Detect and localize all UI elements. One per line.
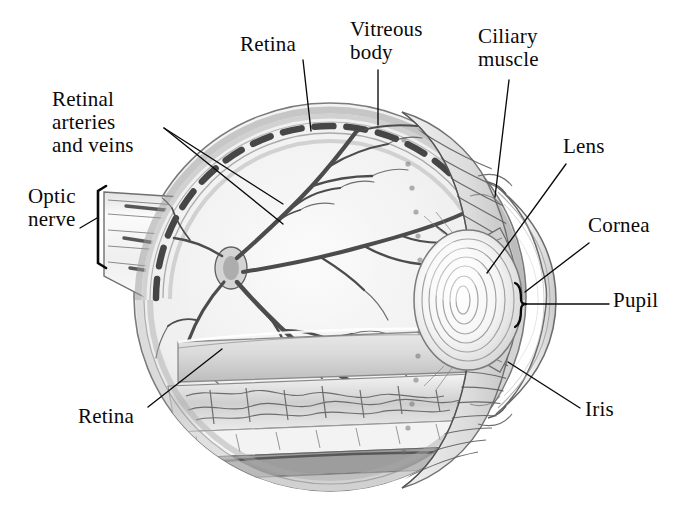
eye-illustration: [0, 0, 691, 515]
label-cornea: Cornea: [588, 214, 650, 237]
leader-ciliary-muscle: [495, 80, 509, 197]
eye-anatomy-figure: Retina Vitreous body Ciliary muscle Reti…: [0, 0, 691, 515]
label-iris: Iris: [585, 398, 614, 421]
label-ciliary-muscle: Ciliary muscle: [478, 25, 539, 71]
label-vitreous-body: Vitreous body: [350, 18, 423, 64]
label-lens: Lens: [563, 135, 605, 158]
label-optic-nerve: Optic nerve: [28, 185, 76, 231]
label-retinal-arteries-and-veins: Retinal arteries and veins: [52, 88, 134, 157]
leader-optic-nerve: [80, 218, 97, 228]
label-retina-bottom: Retina: [78, 405, 134, 428]
label-retina-top: Retina: [240, 33, 296, 56]
label-pupil: Pupil: [613, 289, 658, 312]
leader-cornea: [525, 243, 589, 292]
